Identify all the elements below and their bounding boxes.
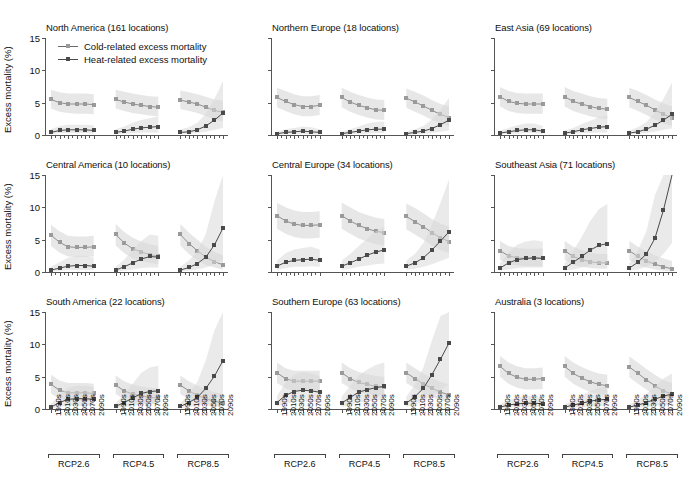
x-tick-minor	[64, 135, 65, 138]
x-tick	[342, 135, 343, 139]
y-tick-label: 5	[35, 234, 40, 245]
x-tick	[663, 272, 664, 276]
x-tick-minor	[154, 135, 155, 138]
x-tick	[294, 272, 295, 276]
x-tick	[60, 272, 61, 276]
x-tick	[590, 135, 591, 139]
rcp-bracket	[562, 454, 614, 455]
x-tick	[286, 135, 287, 139]
x-tick	[303, 272, 304, 276]
x-tick	[150, 272, 151, 276]
heat-data-point	[221, 226, 225, 230]
x-tick	[320, 272, 321, 276]
heat-series-line	[272, 38, 454, 135]
heat-data-point	[195, 128, 199, 132]
x-tick	[384, 272, 385, 276]
x-tick-minor	[137, 272, 138, 275]
y-tick-label: 10	[29, 65, 40, 76]
x-tick	[629, 409, 630, 413]
legend-label: Heat-related excess mortality	[84, 53, 207, 66]
x-tick	[150, 135, 151, 139]
heat-series-line	[495, 38, 677, 135]
x-tick-minor	[55, 272, 56, 275]
x-tick-minor	[586, 135, 587, 138]
x-tick	[158, 272, 159, 276]
x-tick-minor	[595, 135, 596, 138]
x-tick-minor	[577, 272, 578, 275]
heat-series-line	[495, 175, 677, 272]
x-tick-minor	[642, 272, 643, 275]
rcp-scenario-label: RCP8.5	[616, 459, 688, 469]
cold-marker-icon	[58, 46, 78, 47]
x-tick	[526, 135, 527, 139]
x-tick-minor	[290, 135, 291, 138]
heat-series-line	[46, 175, 228, 272]
y-tick	[491, 272, 495, 273]
x-tick	[68, 135, 69, 139]
x-tick	[406, 135, 407, 139]
x-tick	[376, 135, 377, 139]
x-tick	[500, 272, 501, 276]
x-tick	[342, 272, 343, 276]
y-tick-label: 5	[35, 371, 40, 382]
x-tick-minor	[307, 272, 308, 275]
y-tick-label: 10	[29, 339, 40, 350]
x-tick	[599, 272, 600, 276]
plot-area	[495, 175, 677, 272]
x-tick-minor	[137, 135, 138, 138]
x-tick-minor	[513, 272, 514, 275]
x-tick-minor	[428, 135, 429, 138]
x-tick-minor	[504, 272, 505, 275]
x-tick	[509, 135, 510, 139]
x-tick	[223, 135, 224, 139]
x-tick	[206, 272, 207, 276]
x-tick-minor	[146, 272, 147, 275]
heat-data-point	[661, 208, 665, 212]
x-tick-minor	[81, 135, 82, 138]
x-tick	[517, 135, 518, 139]
x-tick	[68, 272, 69, 276]
x-tick	[599, 135, 600, 139]
x-tick-minor	[668, 135, 669, 138]
x-tick	[223, 272, 224, 276]
x-tick	[663, 135, 664, 139]
x-tick	[294, 135, 295, 139]
x-decade-label: 1990s	[409, 394, 418, 416]
x-tick-minor	[193, 135, 194, 138]
x-tick	[376, 272, 377, 276]
x-tick-minor	[513, 135, 514, 138]
x-tick	[180, 409, 181, 413]
x-tick-minor	[81, 272, 82, 275]
rcp-bracket	[113, 454, 165, 455]
x-tick-minor	[72, 135, 73, 138]
x-tick	[342, 409, 343, 413]
x-tick	[646, 135, 647, 139]
heat-data-point	[178, 130, 182, 134]
panel-title: East Asia (69 locations)	[495, 22, 592, 33]
plot-area: 1990s2010s2030s2050s2070s2090sRCP2.61990…	[495, 312, 677, 409]
x-tick	[277, 409, 278, 413]
heat-data-point	[178, 404, 182, 408]
y-tick-label: 5	[35, 97, 40, 108]
x-tick-minor	[603, 135, 604, 138]
x-tick	[367, 135, 368, 139]
x-tick-minor	[445, 135, 446, 138]
rcp-scenario-label: RCP2.6	[38, 459, 110, 469]
heat-data-point	[212, 243, 216, 247]
x-tick-minor	[668, 272, 669, 275]
plot-area	[272, 175, 454, 272]
rcp-bracket	[48, 454, 100, 455]
x-tick	[629, 135, 630, 139]
x-tick	[500, 135, 501, 139]
x-tick	[582, 135, 583, 139]
rcp-bracket	[177, 454, 229, 455]
plot-area: 051015	[46, 175, 228, 272]
x-tick-minor	[72, 272, 73, 275]
heat-data-point	[212, 374, 216, 378]
x-tick	[500, 409, 501, 413]
heat-data-point	[187, 130, 191, 134]
x-tick	[607, 135, 608, 139]
x-tick-minor	[411, 135, 412, 138]
heat-data-point	[195, 262, 199, 266]
x-tick-minor	[89, 272, 90, 275]
